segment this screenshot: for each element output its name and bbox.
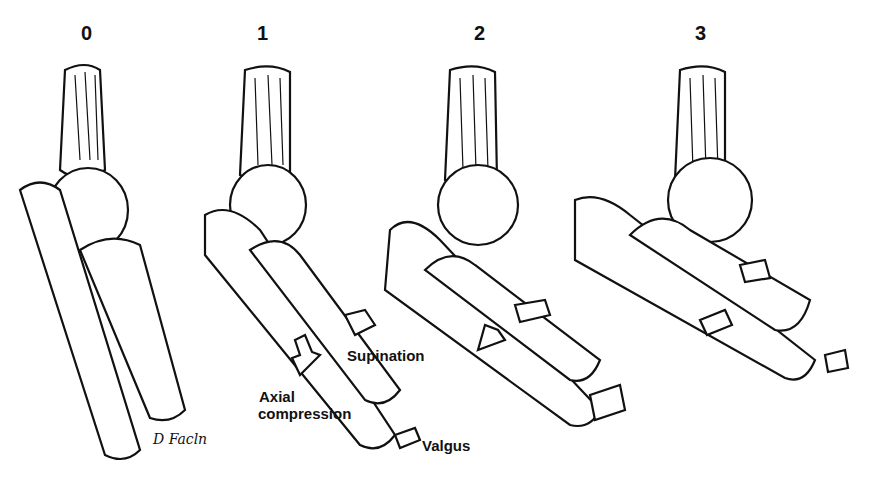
stage-3-number: 3 bbox=[695, 22, 706, 45]
elbow-illustration bbox=[0, 0, 869, 479]
axial-label-line1: Axial bbox=[259, 388, 295, 405]
stage-1-number: 1 bbox=[257, 22, 268, 45]
artist-signature: D Facln bbox=[153, 431, 207, 447]
valgus-label: Valgus bbox=[422, 437, 470, 454]
supination-label: Supination bbox=[347, 347, 425, 364]
stage-2-number: 2 bbox=[474, 22, 485, 45]
stage-0-elbow bbox=[20, 65, 185, 459]
stage-0-number: 0 bbox=[81, 22, 92, 45]
stage-3-elbow bbox=[575, 66, 848, 379]
axial-label-line2: compression bbox=[258, 405, 351, 422]
